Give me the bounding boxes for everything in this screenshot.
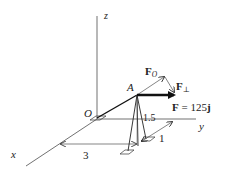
x-axis-label: x bbox=[10, 148, 16, 160]
f-parallel-arrow bbox=[137, 77, 164, 95]
f-force-label: F = 125j bbox=[172, 101, 211, 113]
dim-1-line bbox=[142, 122, 172, 141]
support-foot-1 bbox=[120, 150, 134, 154]
origin-label: O bbox=[84, 107, 92, 119]
dim-height-label: 1.5 bbox=[143, 112, 156, 123]
force-diagram: z y x O A FO F⊥ F = 125j 3 1.5 1 bbox=[0, 0, 226, 174]
y-axis-label: y bbox=[198, 120, 204, 132]
dim-3-label: 3 bbox=[83, 149, 89, 161]
leg-1 bbox=[128, 95, 137, 151]
point-a-label: A bbox=[126, 81, 134, 93]
f-perp-label: F⊥ bbox=[176, 80, 190, 94]
member-oa bbox=[97, 95, 137, 118]
f-perp-arrow bbox=[165, 77, 174, 92]
f-parallel-label: FO bbox=[145, 65, 158, 79]
dim-1-label: 1 bbox=[159, 132, 165, 144]
z-axis-label: z bbox=[103, 10, 108, 21]
